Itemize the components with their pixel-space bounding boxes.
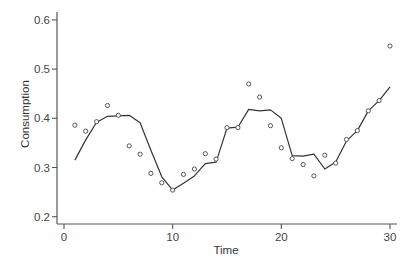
data-point xyxy=(73,123,77,127)
y-tick-label: 0.2 xyxy=(34,211,50,223)
y-tick-label: 0.3 xyxy=(34,162,50,174)
data-point xyxy=(323,153,327,157)
data-point xyxy=(203,152,207,156)
data-point xyxy=(388,44,392,48)
data-point xyxy=(149,171,153,175)
fitted-line xyxy=(75,87,390,190)
y-axis-title: Consumption xyxy=(19,80,31,148)
data-point xyxy=(105,103,109,107)
x-tick-label: 20 xyxy=(275,231,288,243)
data-point xyxy=(225,126,229,130)
axes xyxy=(57,12,397,224)
data-point xyxy=(344,137,348,141)
data-point xyxy=(84,129,88,133)
data-point xyxy=(138,152,142,156)
x-tick-label: 30 xyxy=(384,231,397,243)
x-tick-label: 0 xyxy=(61,231,67,243)
plot-area xyxy=(73,44,392,192)
data-point xyxy=(247,82,251,86)
data-point xyxy=(192,167,196,171)
chart: 0.20.30.40.50.6 0102030 Time Consumption xyxy=(0,0,415,270)
x-tick-label: 10 xyxy=(166,231,179,243)
data-point xyxy=(236,126,240,130)
observed-points xyxy=(73,44,392,192)
data-point xyxy=(171,188,175,192)
y-tick-label: 0.6 xyxy=(34,14,50,26)
data-point xyxy=(214,157,218,161)
data-point xyxy=(312,174,316,178)
data-point xyxy=(377,99,381,103)
data-point xyxy=(301,162,305,166)
consumption-time-plot: 0.20.30.40.50.6 0102030 Time Consumption xyxy=(0,0,415,270)
data-point xyxy=(160,181,164,185)
y-tick-label: 0.5 xyxy=(34,63,50,75)
data-point xyxy=(290,157,294,161)
data-point xyxy=(95,120,99,124)
x-axis-title: Time xyxy=(213,244,238,256)
x-axis-ticks: 0102030 xyxy=(61,224,397,243)
y-tick-label: 0.4 xyxy=(34,112,51,124)
data-point xyxy=(268,124,272,128)
data-point xyxy=(116,113,120,117)
data-point xyxy=(366,109,370,113)
data-point xyxy=(355,129,359,133)
data-point xyxy=(258,95,262,99)
data-point xyxy=(334,161,338,165)
data-point xyxy=(279,146,283,150)
y-axis-ticks: 0.20.30.40.50.6 xyxy=(34,14,57,223)
data-point xyxy=(127,144,131,148)
data-point xyxy=(181,172,185,176)
